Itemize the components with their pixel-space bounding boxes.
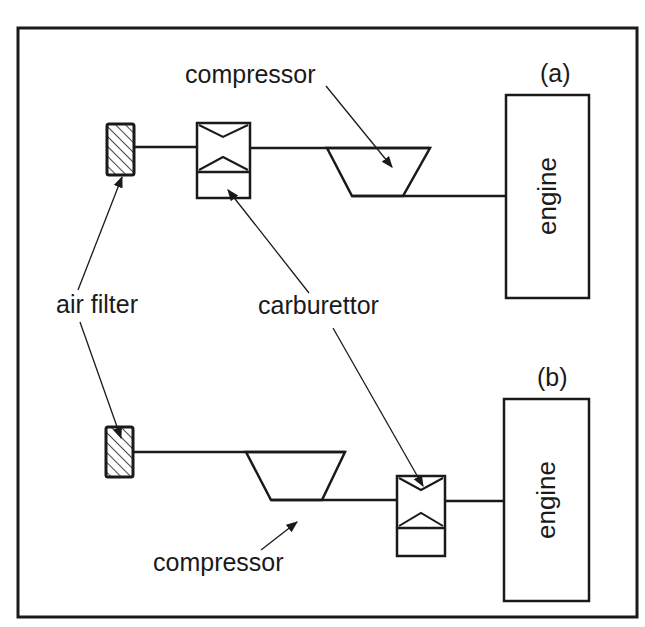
air-filter-label: air filter [56, 290, 138, 318]
carburettor-b-arrow [333, 328, 423, 486]
carburettor-a-arrow [228, 190, 309, 293]
carburettor-b [397, 476, 445, 556]
compressor-a-arrow [326, 86, 392, 167]
air-filter-b-arrow [80, 322, 121, 438]
panel-a: (a) engine compressor [107, 59, 589, 298]
panel-b-tag: (b) [537, 363, 568, 391]
compressor-b-arrow [261, 522, 297, 550]
panel-b: (b) engine compressor [106, 363, 589, 601]
compressor-b [246, 452, 345, 500]
carburettor-a [197, 123, 250, 198]
air-filter-b [106, 427, 133, 477]
air-filter-a [107, 124, 134, 175]
compressor-a-label: compressor [185, 60, 316, 88]
supercharger-layout-diagram: (a) engine compressor air filter carbure… [0, 0, 645, 627]
compressor-a [327, 148, 430, 196]
compressor-b-label: compressor [153, 548, 284, 576]
engine-b-label: engine [531, 461, 561, 539]
air-filter-a-arrow [78, 177, 122, 290]
carburettor-label: carburettor [258, 291, 379, 319]
panel-a-tag: (a) [540, 59, 571, 87]
engine-a-label: engine [532, 157, 562, 235]
